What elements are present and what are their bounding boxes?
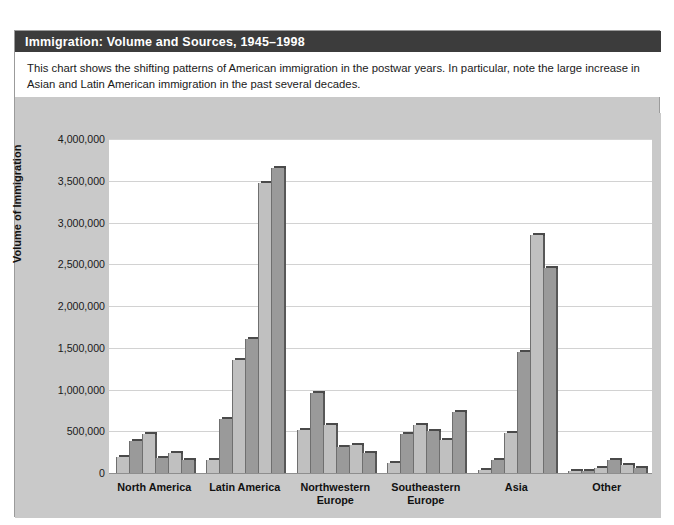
bar <box>530 235 542 473</box>
y-axis-tick-label: 2,000,000 <box>19 300 105 312</box>
bar-front-face <box>206 460 219 473</box>
y-axis-tick-label: 2,500,000 <box>19 258 105 270</box>
bar <box>181 460 193 473</box>
bar-group <box>562 139 653 473</box>
x-axis-label: Latin America <box>200 481 291 507</box>
bar <box>607 460 619 473</box>
x-axis-label-line: Asia <box>471 481 562 494</box>
figure-title-band: Immigration: Volume and Sources, 1945–19… <box>15 31 661 52</box>
bar-front-face <box>258 183 271 473</box>
bar-front-face <box>633 468 646 473</box>
bar-group <box>109 139 200 473</box>
bar-front-face <box>181 460 194 473</box>
bar-front-face <box>452 412 465 473</box>
bar-front-face <box>232 360 245 473</box>
x-axis-label-line: Southeastern <box>381 481 472 494</box>
bar-front-face <box>129 441 142 473</box>
bar-front-face <box>439 440 452 473</box>
screenshot-root: Immigration: Volume and Sources, 1945–19… <box>0 0 674 525</box>
bar-front-face <box>362 453 375 473</box>
bar-group <box>200 139 291 473</box>
bar-front-face <box>245 339 258 473</box>
bar-front-face <box>607 460 620 473</box>
bar <box>426 431 438 473</box>
bar-front-face <box>116 457 129 473</box>
bar <box>387 463 399 473</box>
bar-front-face <box>568 471 581 473</box>
x-axis-label-line: Northwestern <box>290 481 381 494</box>
bar <box>413 425 425 473</box>
bar <box>400 434 412 473</box>
bar-front-face <box>543 268 556 473</box>
bar <box>491 460 503 473</box>
y-axis-tick-label: 4,000,000 <box>19 133 105 145</box>
bar <box>362 453 374 473</box>
bar-front-face <box>504 433 517 473</box>
page-title: Immigration: Volume and Sources, 1945–19… <box>15 35 305 49</box>
bar-front-face <box>349 445 362 473</box>
bar-front-face <box>142 434 155 473</box>
bar <box>219 419 231 473</box>
bar-front-face <box>581 471 594 474</box>
figure-caption-block: This chart shows the shifting patterns o… <box>15 52 661 97</box>
figure-card: Immigration: Volume and Sources, 1945–19… <box>14 30 660 517</box>
bar <box>349 445 361 473</box>
x-axis-label-line: Europe <box>290 494 381 507</box>
x-axis-label-group: North AmericaLatin AmericaNorthwesternEu… <box>109 481 652 507</box>
y-axis-tick-label: 500,000 <box>19 425 105 437</box>
bar-group <box>290 139 381 473</box>
bar-front-face <box>517 352 530 473</box>
bar <box>517 352 529 473</box>
bar <box>129 441 141 473</box>
y-axis-tick-group: 4,000,0003,500,0003,000,0002,500,0002,00… <box>15 139 105 474</box>
bar-front-face <box>413 425 426 473</box>
bar <box>155 458 167 473</box>
bar <box>478 470 490 473</box>
bar <box>116 457 128 473</box>
caption-text: This chart shows the shifting patterns o… <box>27 60 649 92</box>
bar-front-face <box>478 470 491 473</box>
bar-front-face <box>426 431 439 473</box>
bar <box>633 468 645 473</box>
bar-front-face <box>219 419 232 473</box>
bar-front-face <box>271 168 284 473</box>
bar <box>258 183 270 473</box>
bar <box>271 168 283 473</box>
x-axis-label: NorthwesternEurope <box>290 481 381 507</box>
plot-area <box>109 139 652 474</box>
x-axis-line <box>109 473 652 474</box>
bar <box>232 360 244 473</box>
bar-front-face <box>323 425 336 473</box>
bar-front-face <box>155 458 168 473</box>
x-axis-label: SoutheasternEurope <box>381 481 472 507</box>
bar-front-face <box>594 468 607 473</box>
bar-front-face <box>297 430 310 473</box>
x-axis-label: North America <box>109 481 200 507</box>
x-axis-label: Asia <box>471 481 562 507</box>
bar <box>452 412 464 473</box>
bar-front-face <box>491 460 504 473</box>
y-axis-tick-label: 1,500,000 <box>19 342 105 354</box>
bar-front-face <box>310 393 323 473</box>
x-axis-label-line: North America <box>109 481 200 494</box>
y-axis-tick-label: 0 <box>19 467 105 479</box>
y-axis-tick-label: 3,000,000 <box>19 217 105 229</box>
bar-group <box>471 139 562 473</box>
bar-front-face <box>400 434 413 473</box>
chart-panel: Volume of Immigration 4,000,0003,500,000… <box>15 113 661 518</box>
bar-group <box>381 139 472 473</box>
bar <box>323 425 335 473</box>
bar <box>245 339 257 473</box>
bar <box>310 393 322 473</box>
bar <box>168 453 180 473</box>
bar-front-face <box>168 453 181 473</box>
panel-bottom-strip <box>15 508 661 518</box>
bar <box>206 460 218 473</box>
bar <box>620 465 632 473</box>
bar-front-face <box>336 447 349 473</box>
bar <box>594 468 606 473</box>
x-axis-label-line: Other <box>562 481 653 494</box>
bar <box>568 471 580 473</box>
bar <box>336 447 348 473</box>
bar-front-face <box>387 463 400 473</box>
